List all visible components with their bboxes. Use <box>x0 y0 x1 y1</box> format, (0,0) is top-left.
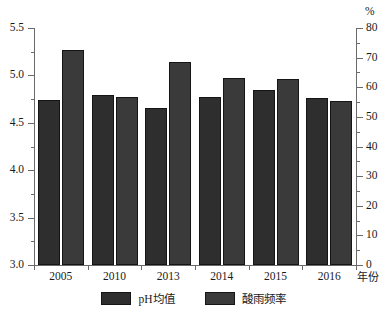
x-axis-category-label-2013: 2013 <box>141 270 195 282</box>
bar-ph-2015 <box>253 90 275 265</box>
y-axis-right-tick-label: 30 <box>366 170 378 182</box>
y-axis-right-tick-label: 70 <box>366 52 378 64</box>
y-axis-right-minor-tick <box>356 221 360 222</box>
y-axis-right-minor-tick <box>356 191 360 192</box>
x-axis-unit-label: 年份 <box>357 272 379 284</box>
bar-ph-2013 <box>145 108 167 265</box>
y-axis-right-tick <box>356 58 363 59</box>
bar-freq-2014 <box>223 78 245 265</box>
y-axis-left-tick <box>28 28 35 29</box>
y-axis-left-minor-tick <box>31 147 35 148</box>
y-axis-right-tick-label: 0 <box>366 259 372 271</box>
y-axis-right-minor-tick <box>356 250 360 251</box>
y-axis-right-tick-label: 20 <box>366 200 378 212</box>
y-axis-left-tick <box>28 123 35 124</box>
bar-freq-2016 <box>330 101 352 265</box>
x-axis-category-label-2015: 2015 <box>249 270 303 282</box>
x-axis-category-label-2016: 2016 <box>302 270 356 282</box>
y-axis-left-tick <box>28 75 35 76</box>
y-axis-right-tick-label: 40 <box>366 141 378 153</box>
acid-rain-bar-chart: % 年份 3.03.54.04.55.05.501020304050607080… <box>0 0 387 314</box>
y-axis-right-tick <box>356 265 363 266</box>
y-axis-right-tick <box>356 28 363 29</box>
y-axis-right-tick <box>356 206 363 207</box>
y-axis-right-minor-tick <box>356 132 360 133</box>
bar-ph-2010 <box>92 95 114 265</box>
legend-label-ph: pH均值 <box>138 293 174 305</box>
right-axis-unit-label: % <box>365 6 375 18</box>
x-axis-category-label-2014: 2014 <box>195 270 249 282</box>
y-axis-right-tick-label: 50 <box>366 111 378 123</box>
y-axis-right-minor-tick <box>356 72 360 73</box>
legend-label-frequency: 酸雨频率 <box>242 293 286 305</box>
y-axis-left-minor-tick <box>31 52 35 53</box>
y-axis-left-tick-label: 3.0 <box>10 259 24 271</box>
legend-item-frequency[interactable]: 酸雨频率 <box>205 292 286 305</box>
y-axis-left-minor-tick <box>31 241 35 242</box>
bar-freq-2013 <box>169 62 191 265</box>
y-axis-left-tick <box>28 218 35 219</box>
legend-swatch-ph <box>101 292 131 305</box>
x-axis-category-label-2005: 2005 <box>34 270 88 282</box>
y-axis-right-minor-tick <box>356 161 360 162</box>
y-axis-right-minor-tick <box>356 43 360 44</box>
bar-freq-2015 <box>277 79 299 265</box>
legend-swatch-frequency <box>205 292 235 305</box>
y-axis-left-tick-label: 5.5 <box>10 22 24 34</box>
y-axis-left-tick-label: 3.5 <box>10 212 24 224</box>
y-axis-left-tick-label: 4.5 <box>10 117 24 129</box>
y-axis-left-minor-tick <box>31 194 35 195</box>
y-axis-left-tick-label: 4.0 <box>10 164 24 176</box>
y-axis-right-tick <box>356 235 363 236</box>
y-axis-right-tick <box>356 117 363 118</box>
y-axis-right-tick-label: 80 <box>366 22 378 34</box>
y-axis-right-tick <box>356 147 363 148</box>
y-axis-left-tick-label: 5.0 <box>10 69 24 81</box>
y-axis-right-minor-tick <box>356 102 360 103</box>
legend-item-ph[interactable]: pH均值 <box>101 292 174 305</box>
x-axis-tick-2016 <box>356 265 357 270</box>
y-axis-left-tick <box>28 170 35 171</box>
bar-ph-2005 <box>38 100 60 265</box>
y-axis-left-minor-tick <box>31 99 35 100</box>
bar-ph-2016 <box>306 98 328 265</box>
y-axis-right-tick <box>356 176 363 177</box>
y-axis-right-tick-label: 10 <box>366 229 378 241</box>
bar-ph-2014 <box>199 97 221 265</box>
bar-freq-2010 <box>116 97 138 265</box>
y-axis-right-tick <box>356 87 363 88</box>
bar-freq-2005 <box>62 50 84 265</box>
x-axis-category-label-2010: 2010 <box>88 270 142 282</box>
chart-legend: pH均值酸雨频率 <box>0 292 387 305</box>
y-axis-right-tick-label: 60 <box>366 81 378 93</box>
